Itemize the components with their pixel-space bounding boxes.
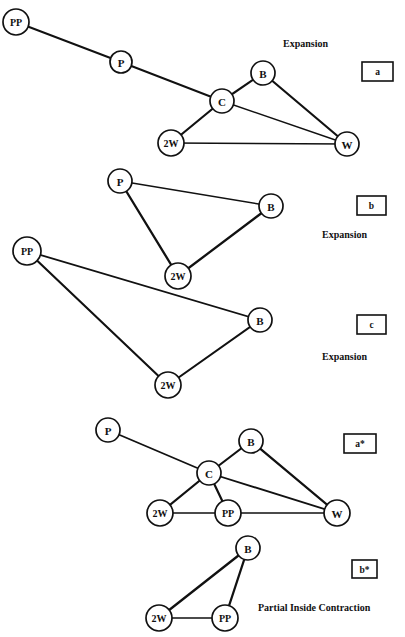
node-label-pp: PP — [21, 246, 33, 257]
node-label-w: W — [342, 139, 353, 151]
panel-tag-c: c — [357, 315, 386, 334]
panel-b-nodes: PB2W — [108, 169, 283, 289]
edge-b-2w — [159, 548, 248, 618]
node-label-p: P — [118, 57, 125, 69]
panel-tag-a: a — [362, 62, 393, 81]
node-2w[interactable]: 2W — [165, 263, 191, 289]
node-label-w: W — [332, 508, 343, 520]
panel-caption: Expansion — [283, 38, 328, 49]
panel-tag-label: a* — [355, 439, 365, 449]
panel-caption: Expansion — [322, 229, 367, 240]
panel-a-star: PBC2WPPWa* — [96, 418, 376, 526]
node-label-p: P — [117, 176, 124, 188]
node-label-pp: PP — [219, 613, 231, 624]
node-b[interactable]: B — [236, 536, 260, 560]
node-pp[interactable]: PP — [215, 500, 241, 526]
edge-p-b — [120, 181, 271, 206]
panel-c-nodes: PPB2W — [13, 237, 272, 398]
panel-a-nodes: PPPCBW2W — [3, 9, 359, 156]
figure-page: PPPCBW2WaExpansionPB2WbExpansionPPB2WcEx… — [0, 0, 405, 637]
node-c[interactable]: C — [210, 89, 234, 113]
panel-b: PB2WbExpansion — [108, 169, 386, 289]
node-label-2w: 2W — [153, 508, 168, 519]
node-label-2w: 2W — [161, 380, 176, 391]
panel-b-star-edges — [159, 548, 248, 618]
node-pp[interactable]: PP — [3, 9, 29, 35]
panel-tag-b: b — [357, 196, 386, 215]
panel-tag-label: a — [375, 67, 380, 77]
node-label-pp: PP — [10, 17, 22, 28]
node-p[interactable]: P — [108, 169, 132, 193]
node-p[interactable]: P — [96, 418, 120, 442]
panel-caption: Expansion — [322, 351, 367, 362]
network-diagram: PPPCBW2WaExpansionPB2WbExpansionPPB2WcEx… — [0, 0, 405, 637]
edge-2w-w — [171, 143, 347, 144]
node-label-c: C — [205, 468, 213, 480]
node-label-b: B — [256, 315, 264, 327]
panel-tag-label: c — [369, 320, 373, 330]
node-2w[interactable]: 2W — [158, 130, 184, 156]
edge-c-w — [222, 101, 347, 144]
panel-c-edges — [27, 251, 260, 385]
edge-p-c — [121, 62, 222, 101]
panel-b-edges — [120, 181, 271, 276]
node-2w[interactable]: 2W — [147, 500, 173, 526]
node-label-b: B — [244, 543, 252, 555]
panel-a: PPPCBW2WaExpansion — [3, 9, 393, 156]
node-label-b: B — [267, 201, 275, 213]
node-label-c: C — [218, 96, 226, 108]
edge-b-2w — [178, 206, 271, 276]
edge-b-w — [263, 73, 347, 144]
node-p[interactable]: P — [110, 51, 132, 73]
node-2w[interactable]: 2W — [155, 372, 181, 398]
node-label-2w: 2W — [152, 613, 167, 624]
edge-b-2w — [168, 320, 260, 385]
edge-p-2w — [120, 181, 178, 276]
panel-tag-label: b — [369, 201, 374, 211]
panel-tag-b-star: b* — [352, 560, 377, 578]
node-label-b: B — [259, 68, 267, 80]
node-label-p: P — [105, 425, 112, 437]
node-pp[interactable]: PP — [212, 605, 238, 631]
node-pp[interactable]: PP — [13, 237, 41, 265]
node-2w[interactable]: 2W — [146, 605, 172, 631]
panel-tag-a-star: a* — [344, 434, 376, 453]
node-b[interactable]: B — [259, 194, 283, 218]
node-label-pp: PP — [222, 508, 234, 519]
node-b[interactable]: B — [239, 429, 263, 453]
node-label-2w: 2W — [164, 138, 179, 149]
panel-caption: Partial Inside Contraction — [258, 602, 371, 613]
edge-b-w — [251, 441, 337, 513]
edge-pp-p — [16, 22, 121, 62]
node-label-b: B — [247, 436, 255, 448]
panel-tag-label: b* — [359, 565, 369, 575]
edge-p-c — [108, 430, 209, 473]
node-b[interactable]: B — [248, 308, 272, 332]
node-label-2w: 2W — [171, 271, 186, 282]
node-b[interactable]: B — [251, 61, 275, 85]
node-c[interactable]: C — [197, 461, 221, 485]
node-w[interactable]: W — [324, 500, 350, 526]
node-w[interactable]: W — [335, 132, 359, 156]
panel-a-star-nodes: PBC2WPPW — [96, 418, 350, 526]
panel-b-star: B2WPPb*Partial Inside Contraction — [146, 536, 377, 631]
